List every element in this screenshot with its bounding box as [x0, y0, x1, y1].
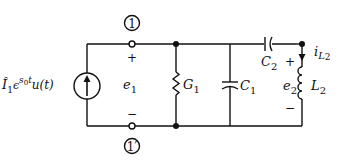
c1-label: C1 [240, 78, 256, 96]
e1-plus: + [127, 51, 137, 65]
junction-dot [299, 41, 305, 47]
l2-label: L2 [310, 78, 326, 96]
e2-plus: + [285, 55, 295, 69]
e1-label: e1 [123, 77, 137, 95]
arrow-up-icon [84, 75, 91, 82]
c2-label: C2 [261, 54, 277, 72]
inductor-l2-icon [298, 67, 302, 99]
node-1-label: 1 [128, 17, 136, 31]
terminal-1 [129, 41, 135, 47]
terminal-1prime [129, 123, 135, 129]
junction-dot [173, 41, 179, 47]
e1-minus: − [127, 107, 137, 121]
junction-dot [173, 123, 179, 129]
il2-label: iL2 [314, 44, 331, 62]
g1-label: G1 [183, 77, 200, 95]
resistor-g1-icon [173, 72, 179, 95]
circuit-diagram: 1 1′ + − e1 Î1ϵs0tu(t) G1 C1 C2 iL2 + − … [0, 0, 342, 165]
arrow-down-icon [299, 54, 306, 61]
source-label: Î1ϵs0tu(t) [1, 75, 54, 95]
e2-minus: − [285, 101, 295, 115]
node-1prime-label: 1′ [127, 140, 138, 154]
e2-label: e2 [283, 78, 297, 96]
